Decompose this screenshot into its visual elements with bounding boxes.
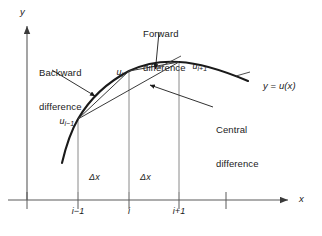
leader-curve-equation	[236, 72, 250, 76]
x-axis-label: x	[299, 193, 304, 204]
curve-equation-argument: (x)	[284, 80, 295, 91]
annotation-backward-difference: Backward difference	[39, 45, 82, 135]
delta-x-label-right: Δx	[140, 172, 151, 183]
annotation-central-difference: Central difference	[216, 102, 259, 192]
annotation-backward-difference-line2: difference	[39, 101, 82, 112]
delta-x-label-left: Δx	[89, 172, 100, 183]
finite-difference-diagram: y x i−1 i i+1 Δx Δx ui−1 ui ui+1 Forward…	[0, 0, 322, 236]
annotation-forward-difference: Forward difference	[143, 6, 186, 96]
annotation-central-difference-line1: Central	[216, 124, 259, 135]
y-axis-label: y	[20, 6, 25, 17]
annotation-forward-difference-line2: difference	[143, 62, 186, 73]
annotation-forward-difference-line1: Forward	[143, 28, 186, 39]
curve-equation-label: y = u(x)	[252, 69, 296, 103]
curve-equation-equals: =	[268, 80, 279, 91]
tick-label-i-minus-1: i−1	[63, 206, 93, 217]
annotation-central-difference-line2: difference	[216, 158, 259, 169]
tick-label-i: i	[119, 206, 139, 217]
point-label-u-i-subscript: i	[122, 70, 124, 77]
annotation-backward-difference-line1: Backward	[39, 67, 82, 78]
tick-label-i-plus-1: i+1	[164, 206, 194, 217]
point-label-u-i-plus-1: ui+1	[182, 50, 207, 83]
point-label-u-i-plus-1-subscript: i+1	[198, 64, 208, 71]
point-label-u-i: ui	[106, 56, 123, 89]
